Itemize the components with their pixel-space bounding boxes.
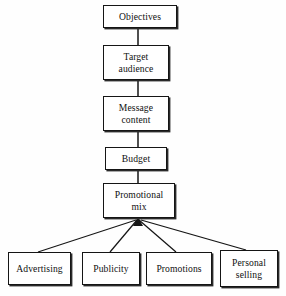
connector-advertising-to-promotional-mix	[38, 220, 136, 252]
node-advertising[interactable]: Advertising	[8, 252, 71, 285]
node-promotional-mix-label: Promotional mix	[113, 189, 166, 212]
node-budget[interactable]: Budget	[105, 147, 167, 170]
node-message-content-label: Message content	[117, 102, 155, 125]
node-promotions[interactable]: Promotions	[146, 252, 212, 285]
node-promotional-mix[interactable]: Promotional mix	[103, 183, 175, 218]
node-personal-selling[interactable]: Personal selling	[220, 250, 278, 287]
node-advertising-label: Advertising	[14, 263, 64, 275]
flowchart-diagram: Objectives Target audience Message conte…	[0, 0, 286, 296]
node-message-content[interactable]: Message content	[103, 96, 169, 131]
node-objectives[interactable]: Objectives	[103, 5, 177, 28]
node-budget-label: Budget	[120, 153, 152, 165]
node-publicity-label: Publicity	[91, 263, 131, 275]
node-publicity[interactable]: Publicity	[82, 252, 140, 285]
node-promotions-label: Promotions	[154, 263, 203, 275]
node-personal-selling-label: Personal selling	[230, 257, 268, 280]
connector-publicity-to-promotional-mix	[110, 220, 137, 252]
node-target-audience[interactable]: Target audience	[103, 45, 169, 80]
node-target-audience-label: Target audience	[117, 51, 156, 74]
node-objectives-label: Objectives	[117, 11, 163, 23]
